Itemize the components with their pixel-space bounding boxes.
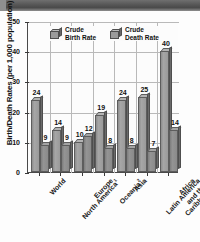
bar-face-side — [49, 140, 52, 169]
bar-face-front — [169, 130, 178, 172]
y-tick-label: 0 — [6, 169, 20, 176]
x-axis-label-line: North America1 — [79, 177, 121, 221]
y-tick-label: 50 — [6, 18, 20, 25]
bar-crude-death-rate — [40, 145, 49, 172]
y-tick-mark — [25, 173, 29, 174]
bar-face-front — [126, 148, 135, 172]
legend-label-line1: Crude — [65, 26, 96, 34]
y-tick-mark — [25, 82, 29, 83]
y-tick-label: 40 — [6, 48, 20, 55]
legend-item-crude-death-rate: CrudeDeath Rate — [110, 26, 159, 41]
bar-face-side — [135, 143, 138, 169]
x-axis-label-north-america: North America1 — [79, 177, 121, 221]
bar-crude-birth-rate — [74, 142, 83, 172]
legend-label-line2: Birth Rate — [65, 34, 96, 42]
y-tick-mark — [25, 52, 29, 53]
x-tick-mark — [82, 173, 83, 176]
legend-cube-face-lf — [50, 31, 59, 39]
y-tick-label: 30 — [6, 78, 20, 85]
bar-crude-death-rate — [169, 130, 178, 172]
legend-cube-icon — [50, 29, 62, 39]
bar-face-side — [70, 140, 73, 169]
x-tick-mark — [125, 173, 126, 176]
legend-cube-icon — [110, 29, 122, 39]
bar-value-label: 40 — [158, 40, 174, 47]
y-tick-mark — [25, 113, 29, 114]
bar-crude-birth-rate — [138, 97, 147, 173]
bar-face-front — [40, 145, 49, 172]
bar-face-front — [61, 145, 70, 172]
bar-crude-birth-rate — [160, 51, 169, 172]
bar-crude-death-rate — [83, 136, 92, 172]
x-axis-label-line: World — [48, 177, 67, 197]
y-tick-mark — [25, 22, 29, 23]
legend-label: CrudeDeath Rate — [125, 26, 159, 41]
bar-value-label: 19 — [93, 104, 109, 111]
x-axis-label-world: World — [48, 177, 67, 197]
bar-face-front — [147, 151, 156, 172]
bar-value-label: 14 — [50, 119, 66, 126]
y-tick-label: 10 — [6, 139, 20, 146]
legend-cube-face-ls — [59, 27, 62, 37]
bar-face-side — [113, 143, 116, 169]
bar-face-front — [138, 97, 147, 173]
bar-face-side — [92, 131, 95, 169]
bar-face-front — [83, 136, 92, 172]
bar-value-label: 24 — [115, 89, 131, 96]
x-tick-mark — [147, 173, 148, 176]
y-tick-mark — [25, 143, 29, 144]
bar-crude-death-rate — [104, 148, 113, 172]
legend-cube-face-lf — [110, 31, 119, 39]
bar-value-label: 25 — [136, 86, 152, 93]
y-tick-label: 20 — [6, 109, 20, 116]
bar-face-side — [156, 146, 159, 169]
legend-item-crude-birth-rate: CrudeBirth Rate — [50, 26, 96, 41]
plot-area: 24914910121982482574014 — [27, 22, 178, 173]
bar-face-front — [117, 100, 126, 172]
bar-crude-death-rate — [61, 145, 70, 172]
legend-label-line2: Death Rate — [125, 34, 159, 42]
bar-value-label: 24 — [29, 89, 45, 96]
bar-crude-birth-rate — [117, 100, 126, 172]
bar-face-front — [104, 148, 113, 172]
legend-label-line1: Crude — [125, 26, 159, 34]
bar-crude-death-rate — [147, 151, 156, 172]
bar-crude-death-rate — [126, 148, 135, 172]
legend-label: CrudeBirth Rate — [65, 26, 96, 41]
chart-figure: Birth/Death Rates (per 1,000 population)… — [0, 11, 200, 242]
bar-face-side — [178, 125, 181, 169]
bar-face-front — [74, 142, 83, 172]
legend-cube-face-ls — [119, 27, 122, 37]
x-tick-mark — [104, 173, 105, 176]
x-tick-mark — [168, 173, 169, 176]
x-tick-mark — [39, 173, 40, 176]
bar-face-front — [160, 51, 169, 172]
bar-value-label: 14 — [167, 119, 183, 126]
x-tick-mark — [60, 173, 61, 176]
scan-artifact-band — [0, 0, 200, 11]
